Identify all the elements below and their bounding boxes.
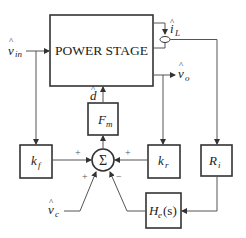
ri-to-he-wire (182, 176, 217, 211)
fm-sub: m (106, 119, 113, 129)
summing-junction: Σ + + + − (75, 136, 131, 182)
power-stage-block: POWER STAGE (50, 15, 153, 86)
vc-signal: ^ v c (48, 172, 96, 219)
fm-block: F m ^ d (88, 84, 118, 135)
kr-label: k (158, 153, 164, 168)
block-diagram: POWER STAGE ^ v in ^ i L ^ v o F m ^ d (0, 0, 246, 238)
vc-sub: c (55, 209, 59, 219)
sign-he: − (116, 171, 122, 182)
vin-signal: ^ v in (8, 36, 49, 144)
he-sub: e (158, 210, 162, 220)
il-sub: L (174, 28, 180, 38)
sign-kr: + (125, 147, 131, 158)
kr-sub: r (165, 160, 169, 170)
il-loop-wire (153, 23, 165, 34)
vo-signal: ^ v o (153, 60, 190, 144)
il-to-ri-wire (170, 40, 217, 145)
il-label: i (170, 21, 174, 36)
sign-kf: + (75, 147, 81, 158)
vin-sub: in (15, 49, 23, 59)
current-probe-icon (160, 37, 170, 43)
kf-label: k (31, 153, 37, 168)
il-return-wire (153, 43, 165, 48)
vo-label: v (178, 66, 184, 81)
vc-label: v (48, 202, 54, 217)
ri-label: R (208, 153, 217, 168)
power-stage-label: POWER STAGE (55, 43, 148, 58)
vc-to-sum-wire (64, 172, 96, 211)
sum-symbol: Σ (99, 153, 107, 168)
vo-sub: o (185, 73, 190, 83)
ri-block: R i (182, 145, 232, 211)
sign-vc: + (82, 171, 88, 182)
vin-label: v (8, 43, 14, 58)
he-suffix: (s) (163, 203, 177, 218)
d-label: d (90, 88, 97, 103)
